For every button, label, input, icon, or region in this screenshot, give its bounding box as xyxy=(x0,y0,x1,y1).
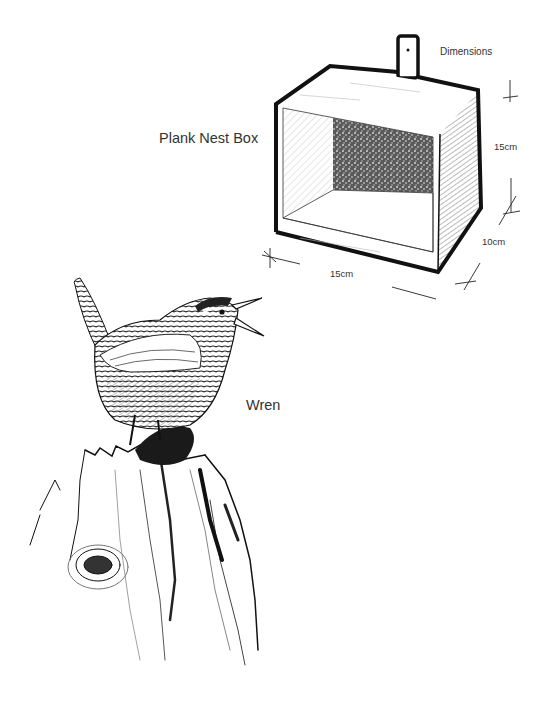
dimensions-heading: Dimensions xyxy=(440,46,492,57)
wren-drawing xyxy=(30,278,264,665)
nest-box-drawing xyxy=(262,36,520,299)
width-dimension-label: 15cm xyxy=(330,268,353,279)
height-dimension-label: 15cm xyxy=(494,141,517,152)
screw-hole xyxy=(407,49,410,52)
tree-stump xyxy=(30,445,258,665)
depth-dimension-label: 10cm xyxy=(482,236,505,247)
illustration-canvas xyxy=(0,0,535,707)
nest-box-title: Plank Nest Box xyxy=(159,130,258,146)
hanging-bracket xyxy=(398,36,418,78)
bird-name-label: Wren xyxy=(246,397,280,413)
